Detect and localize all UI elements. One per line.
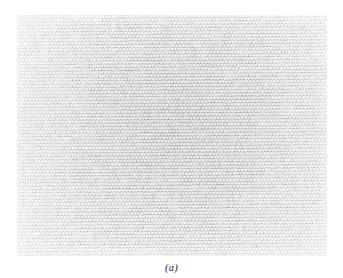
lattice-texture: [17, 15, 327, 256]
figure-root: (a): [0, 0, 343, 278]
micrograph-panel: [17, 15, 327, 256]
figure-caption: (a): [0, 262, 343, 274]
